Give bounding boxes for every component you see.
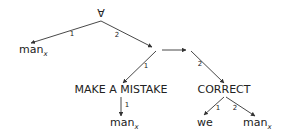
man-x-node-middle: manx: [110, 116, 139, 131]
edge-label-conj-correct: 2: [198, 60, 202, 68]
we-node: we: [197, 116, 213, 129]
root-quantifier-node: ∀: [97, 7, 105, 20]
edge-root-to-conj: [101, 21, 152, 47]
edge-correct-to-man-right: [226, 97, 255, 116]
edge-conj-to-correct: [191, 51, 224, 83]
correct-node: CORRECT: [198, 83, 251, 96]
edge-root-to-man-left: [31, 21, 101, 43]
edge-conj-to-make-mistake: [123, 51, 156, 83]
edge-label-conj-make-mistake: 1: [144, 62, 148, 70]
edge-correct-to-we: [204, 97, 224, 115]
edge-label-correct-man-right: 2: [233, 104, 237, 112]
make-a-mistake-node: MAKE A MISTAKE: [75, 83, 168, 96]
edge-label-root-conj: 2: [115, 31, 119, 39]
edge-label-correct-we: 1: [216, 104, 220, 112]
man-x-node-left: manx: [19, 43, 48, 58]
semantic-network-diagram: ∀ 1 2 manx 1 2 MAKE A MISTAKE 1 manx COR…: [0, 0, 284, 137]
edge-label-make-mistake-man: 1: [125, 101, 129, 109]
edge-label-root-man-left: 1: [70, 30, 74, 38]
man-x-node-right: manx: [243, 116, 272, 131]
